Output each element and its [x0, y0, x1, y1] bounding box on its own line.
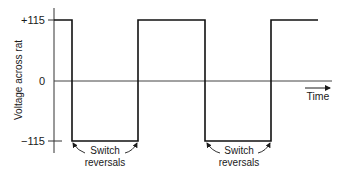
annotation-2-line1: Switch: [224, 145, 253, 156]
y-axis-label: Voltage across rat: [13, 40, 24, 120]
annotation-2-line2: reversals: [219, 157, 260, 168]
annotation-1-line1: Switch: [90, 145, 119, 156]
x-axis-label: Time: [307, 90, 330, 102]
ytick-minus115: −115: [21, 135, 45, 147]
square-wave-diagram: +115 0 −115 Voltage across rat Time Swit…: [0, 0, 345, 176]
ytick-plus115: +115: [21, 14, 45, 26]
annotation-1-line2: reversals: [85, 157, 126, 168]
diagram-canvas: +115 0 −115 Voltage across rat Time Swit…: [0, 0, 345, 176]
ytick-zero: 0: [39, 75, 45, 87]
